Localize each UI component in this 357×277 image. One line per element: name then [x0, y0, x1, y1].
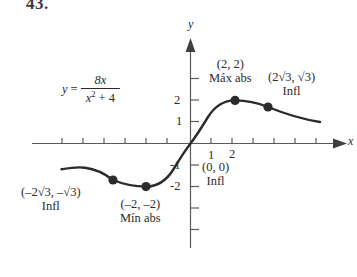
annotation-infl-left-point: (–2√3, –√3): [21, 185, 81, 199]
annotation-infl-right-note: Infl: [268, 84, 315, 98]
graph-canvas: [0, 0, 357, 277]
point-max-abs: [230, 96, 239, 105]
annotation-origin-note: Infl: [202, 174, 229, 188]
figure-page: 43.: [0, 0, 357, 277]
annotation-max-abs: (2, 2) Máx abs: [209, 57, 252, 85]
annotation-min-abs-point: (–2, –2): [121, 197, 161, 211]
equation-denominator-exponent: 2: [91, 89, 95, 99]
y-tick-label-2: 2: [174, 93, 180, 107]
equation-fraction: 8x x2 + 4: [81, 74, 120, 105]
y-axis-label: y: [188, 18, 193, 31]
annotation-min-abs-note: Mín abs: [120, 211, 161, 225]
x-tick-label-2: 2: [229, 147, 235, 161]
annotation-infl-right: (2√3, √3) Infl: [268, 70, 315, 98]
equation-denominator: x2 + 4: [81, 89, 120, 105]
y-tick-label-minus-2: -2: [170, 179, 180, 193]
x-axis-label: x: [348, 135, 353, 148]
point-min-abs: [141, 182, 150, 191]
equation-lhs: y: [62, 82, 68, 97]
annotation-infl-right-point: (2√3, √3): [268, 70, 315, 84]
annotation-infl-left-note: Infl: [21, 199, 81, 213]
point-infl-right: [263, 102, 272, 111]
annotation-max-abs-note: Máx abs: [209, 71, 252, 85]
y-tick-label-1: 1: [176, 114, 182, 128]
point-infl-left: [108, 175, 117, 184]
annotation-max-abs-point: (2, 2): [217, 57, 244, 71]
annotation-origin: (0, 0) Infl: [202, 160, 229, 188]
equation-equals: =: [71, 82, 78, 97]
equation-denominator-tail: + 4: [99, 91, 115, 105]
annotation-origin-point: (0, 0): [202, 160, 229, 174]
equation-label: y = 8x x2 + 4: [62, 74, 120, 105]
annotation-infl-left: (–2√3, –√3) Infl: [21, 185, 81, 213]
y-tick-label-minus-1: -1: [170, 158, 180, 172]
equation-numerator: 8x: [89, 74, 111, 88]
annotation-min-abs: (–2, –2) Mín abs: [120, 197, 161, 225]
